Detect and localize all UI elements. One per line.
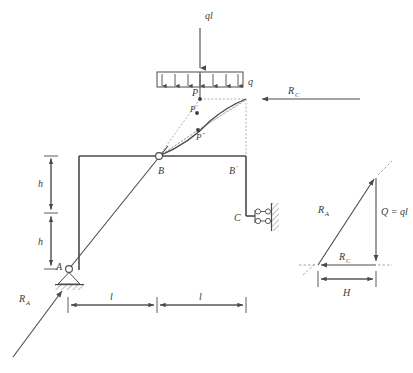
label-load-resultant: ql bbox=[205, 10, 213, 21]
distributed-load-group bbox=[157, 72, 243, 99]
label-node-b-prime-group: B ′ bbox=[229, 164, 238, 176]
pin-a-circle bbox=[66, 266, 73, 273]
force-triangle-ra-vector bbox=[318, 179, 374, 265]
label-height-1: h bbox=[38, 178, 43, 189]
label-reaction-a: R bbox=[18, 293, 25, 304]
roller-c-circle-top-left bbox=[255, 209, 260, 214]
label-span-2: l bbox=[199, 291, 202, 302]
roller-c-circle-bottom-right bbox=[265, 218, 270, 223]
point-p-prime-marker bbox=[195, 111, 199, 115]
roller-c-circle-bottom-left bbox=[255, 218, 260, 223]
dimension-heights-group bbox=[44, 156, 58, 269]
force-triangle-label-ra: R bbox=[317, 204, 324, 215]
label-node-b-prime-mark: ′ bbox=[236, 164, 238, 171]
force-triangle-label-rc: R bbox=[338, 251, 345, 262]
label-node-c: C bbox=[234, 212, 241, 223]
force-triangle-label-rc-sub: C bbox=[346, 257, 351, 264]
label-node-a: A bbox=[55, 261, 63, 272]
force-triangle-label-rc-group: R C bbox=[338, 251, 351, 264]
force-triangle-label-h: H bbox=[342, 287, 351, 298]
label-reaction-c: R bbox=[287, 85, 294, 96]
force-triangle-label-ra-sub: A bbox=[324, 210, 329, 217]
label-reaction-a-sub: A bbox=[25, 299, 30, 306]
force-triangle-dashed-extension-upper bbox=[378, 161, 392, 175]
roller-c-circle-top-right bbox=[265, 209, 270, 214]
engineering-diagram-figure: ql q P P ′ P ″ R C B B ′ C A h bbox=[0, 0, 413, 373]
support-roller-c bbox=[255, 203, 279, 231]
label-point-p: P bbox=[191, 87, 198, 98]
diagram-canvas: ql q P P ′ P ″ R C B B ′ C A h bbox=[0, 0, 413, 373]
force-triangle-group bbox=[299, 161, 392, 287]
deflection-construction-group bbox=[159, 97, 246, 157]
member-diagonal-strut bbox=[69, 146, 168, 269]
hinge-b bbox=[156, 153, 163, 160]
point-p-marker bbox=[198, 97, 202, 101]
force-triangle-label-ra-group: R A bbox=[317, 204, 329, 217]
label-distributed-load: q bbox=[248, 76, 253, 87]
label-node-b-prime: B bbox=[229, 165, 235, 176]
label-reaction-c-sub: C bbox=[295, 91, 300, 98]
label-point-p-double-prime: P bbox=[195, 132, 202, 142]
label-point-p-double-prime-group: P ″ bbox=[195, 131, 205, 142]
label-span-1: l bbox=[110, 291, 113, 302]
pin-a-triangle bbox=[58, 273, 80, 285]
label-node-b: B bbox=[158, 165, 164, 176]
label-point-p-double-prime-mark: ″ bbox=[202, 131, 205, 138]
pin-a-ground-hatch bbox=[55, 285, 84, 290]
label-height-2: h bbox=[38, 236, 43, 247]
roller-c-wall-hatch bbox=[272, 203, 279, 231]
label-reaction-c-group: R C bbox=[287, 85, 300, 98]
label-point-p-prime: P bbox=[189, 104, 196, 114]
force-triangle-label-q: Q = ql bbox=[381, 206, 408, 217]
label-point-p-prime-mark: ′ bbox=[196, 103, 198, 110]
dimension-spans-group bbox=[68, 297, 246, 313]
label-reaction-a-group: R A bbox=[18, 293, 30, 306]
